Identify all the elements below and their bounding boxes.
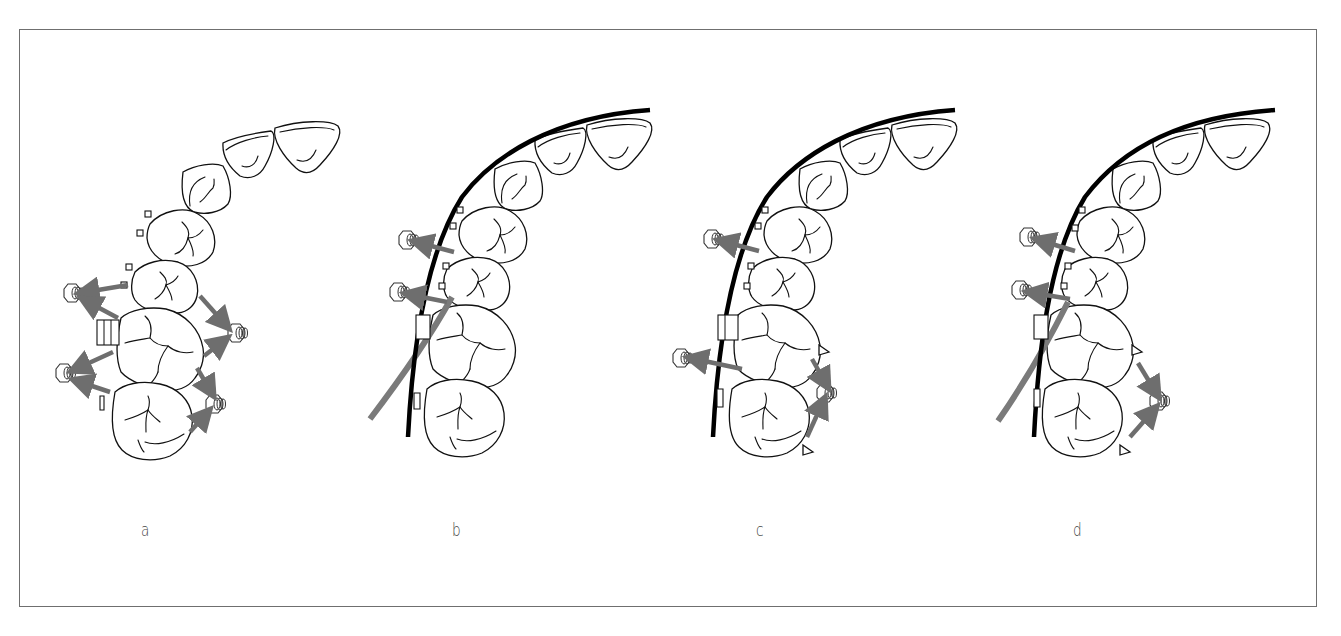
buccal-miniscrew-icon — [56, 364, 76, 382]
buccal-miniscrew-icon — [64, 284, 84, 302]
molar-tube-icon — [97, 320, 119, 345]
panel-a — [56, 122, 340, 460]
band-hook-icon — [100, 396, 104, 410]
panel-b — [370, 110, 652, 457]
palatal-miniscrew-icon — [228, 324, 248, 342]
panel-label-a: a — [141, 520, 149, 540]
panel-label-c: c — [756, 520, 763, 540]
panel-d — [998, 110, 1275, 457]
upper-arch-teeth — [112, 122, 339, 460]
panel-label-d: d — [1073, 520, 1082, 540]
figure: a b c d — [0, 0, 1341, 636]
bracket-icon — [126, 264, 132, 270]
diagram-canvas — [0, 0, 1341, 636]
palatal-miniscrew-icon — [206, 395, 226, 413]
bracket-icon — [137, 230, 143, 236]
bracket-icon — [145, 211, 151, 217]
panel-label-b: b — [452, 520, 461, 540]
panel-c — [673, 110, 957, 457]
